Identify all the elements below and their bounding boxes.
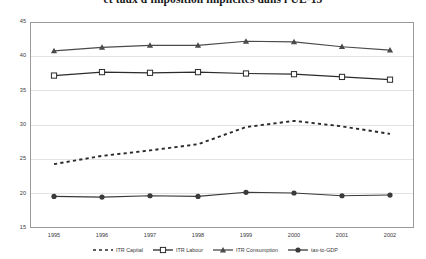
legend-item-tax-to-gdp[interactable]: tax-to-GDP xyxy=(287,246,338,254)
data-point xyxy=(195,193,200,198)
data-point xyxy=(99,69,104,74)
legend-label: ITR Consumption xyxy=(236,247,278,253)
x-axis-tick-label: 2000 xyxy=(274,232,314,238)
legend-swatch xyxy=(287,246,309,254)
legend-label: ITR Capital xyxy=(116,247,143,253)
y-axis-tick-label: 45 xyxy=(5,18,26,24)
data-point xyxy=(51,193,56,198)
x-axis-tick-label: 1999 xyxy=(226,232,266,238)
x-axis-tick-label: 1996 xyxy=(82,232,122,238)
series-itr-labour xyxy=(51,69,392,82)
legend-item-itr-capital[interactable]: ITR Capital xyxy=(92,246,143,254)
chart-legend: ITR CapitalITR LabourITR Consumptiontax-… xyxy=(92,244,342,256)
data-point xyxy=(339,74,344,79)
series-itr-capital xyxy=(54,120,390,163)
y-axis-tick-label: 30 xyxy=(5,121,26,127)
x-axis-tick-label: 1998 xyxy=(178,232,218,238)
y-axis-tick-label: 25 xyxy=(5,155,26,161)
x-axis-tick-label: 1995 xyxy=(34,232,74,238)
data-point xyxy=(243,189,248,194)
data-point xyxy=(147,70,152,75)
legend-swatch xyxy=(92,246,114,254)
data-point xyxy=(51,72,56,77)
data-point xyxy=(99,194,104,199)
y-axis-tick-label: 35 xyxy=(5,87,26,93)
x-axis-tick-label: 2002 xyxy=(370,232,410,238)
y-axis-tick-label: 20 xyxy=(5,190,26,196)
data-point xyxy=(195,69,200,74)
data-point xyxy=(243,70,248,75)
data-point xyxy=(387,77,392,82)
y-axis-tick-label: 15 xyxy=(5,224,26,230)
legend-label: tax-to-GDP xyxy=(311,247,338,253)
data-point xyxy=(339,193,344,198)
x-axis-tick-labels: 19951996199719981999200020012002 xyxy=(30,232,414,244)
legend-label: ITR Labour xyxy=(176,247,203,253)
x-axis-tick-label: 2001 xyxy=(322,232,362,238)
x-axis-tick-label: 1997 xyxy=(130,232,170,238)
legend-swatch xyxy=(212,246,234,254)
series-itr-consumption xyxy=(51,38,393,53)
chart-plot xyxy=(30,22,414,228)
chart-container: et taux d'imposition implicites dans l'U… xyxy=(0,0,426,259)
data-point xyxy=(387,192,392,197)
legend-item-itr-consumption[interactable]: ITR Consumption xyxy=(212,246,278,254)
y-axis-tick-label: 40 xyxy=(5,52,26,58)
data-point xyxy=(147,193,152,198)
data-point xyxy=(291,71,296,76)
data-point xyxy=(291,190,296,195)
legend-swatch xyxy=(152,246,174,254)
series-tax-to-gdp xyxy=(51,189,392,199)
legend-item-itr-labour[interactable]: ITR Labour xyxy=(152,246,203,254)
